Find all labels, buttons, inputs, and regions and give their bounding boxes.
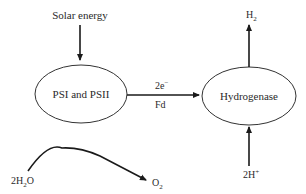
hydrogen-label: H2 xyxy=(246,9,257,23)
protons-label: 2H+ xyxy=(243,168,259,180)
oxygen-label: O2 xyxy=(152,177,163,191)
water-label: 2H2O xyxy=(11,175,34,189)
solar-energy-label: Solar energy xyxy=(52,9,108,21)
water-splitting-arrow xyxy=(28,147,146,180)
diagram-canvas: Solar energy PSI and PSII 2e− Fd Hydroge… xyxy=(0,0,306,194)
electrons-label: 2e− xyxy=(155,79,168,91)
ferredoxin-label: Fd xyxy=(155,99,166,110)
hydrogenase-label: Hydrogenase xyxy=(220,90,278,102)
psi-psii-label: PSI and PSII xyxy=(53,88,110,100)
